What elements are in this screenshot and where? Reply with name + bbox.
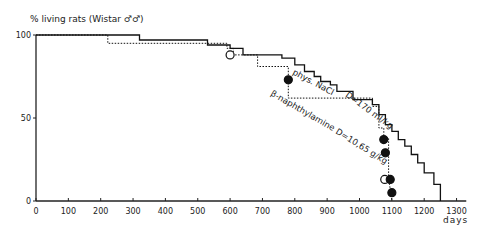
x-axis-title: days [443, 215, 468, 225]
x-tick-label: 800 [287, 207, 302, 216]
x-tick-label: 1100 [382, 207, 402, 216]
annotation-bna-dose: D=10,65 g/kg [334, 126, 390, 166]
annotation-nacl-dose: D=170 ml/kg [344, 90, 396, 131]
x-tick-label: 700 [255, 207, 270, 216]
y-tick-label: 50 [21, 114, 31, 123]
x-tick-label: 900 [320, 207, 335, 216]
x-tick-label: 200 [93, 207, 108, 216]
filled-circle-marker [380, 136, 388, 144]
open-circle-marker [226, 51, 234, 59]
x-tick-label: 400 [158, 207, 173, 216]
chart-canvas: % living rats (Wistar ♂♂) days 010020030… [0, 0, 488, 230]
x-tick-label: 0 [33, 207, 38, 216]
survival-chart: % living rats (Wistar ♂♂) days 010020030… [0, 0, 488, 230]
y-tick-label: 0 [26, 197, 31, 206]
annotation-bna: β-naphthylamine [269, 88, 337, 133]
x-tick-label: 300 [125, 207, 140, 216]
data-markers [226, 51, 396, 197]
x-tick-label: 1000 [349, 207, 369, 216]
x-tick-label: 600 [222, 207, 237, 216]
y-axis-title: % living rats (Wistar ♂♂) [30, 14, 143, 24]
filled-circle-marker [386, 175, 394, 183]
y-tick-label: 100 [16, 31, 31, 40]
x-tick-label: 100 [61, 207, 76, 216]
x-tick-label: 1300 [446, 207, 466, 216]
x-tick-label: 1200 [414, 207, 434, 216]
x-tick-label: 500 [190, 207, 205, 216]
filled-circle-marker [388, 189, 396, 197]
axes: 0100200300400500600700800900100011001200… [16, 31, 467, 216]
series-naphthylamine [36, 35, 392, 201]
filled-circle-marker [284, 76, 292, 84]
